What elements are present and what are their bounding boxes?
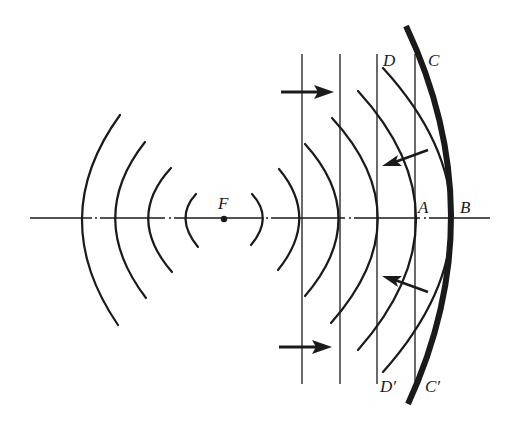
parabolic-mirror [406,26,451,404]
label-D-prime: D′ [379,377,396,396]
label-A: A [417,198,429,217]
label-focus: F [217,194,229,213]
arrows-toward-focus [382,150,428,292]
right-wavefronts [251,68,452,372]
left-wavefronts [82,115,198,325]
label-B: B [460,198,471,217]
parabolic-mirror-diagram: F D C A B D′ C′ [0,0,507,422]
label-C: C [428,51,440,70]
label-D: D [382,51,396,70]
arrows-plane-waves [279,85,334,354]
focus-point [221,216,227,222]
plane-wavefronts [302,54,415,384]
label-C-prime: C′ [425,377,440,396]
